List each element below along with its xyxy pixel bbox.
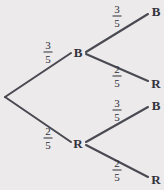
probability-label-r-to-rr: 2 5 <box>113 158 122 183</box>
node-stage1-r: R <box>73 137 82 150</box>
fraction-denominator: 5 <box>44 140 52 151</box>
probability-label-root-to-b: 3 5 <box>44 40 53 65</box>
probability-label-root-to-r: 2 5 <box>44 126 53 151</box>
probability-label-b-to-bb: 3 5 <box>113 4 122 29</box>
fraction-denominator: 5 <box>113 112 121 123</box>
fraction-denominator: 5 <box>113 172 121 183</box>
node-stage1-b: B <box>74 46 83 59</box>
fraction-numerator: 3 <box>113 4 121 15</box>
fraction-numerator: 2 <box>44 126 52 137</box>
probability-label-r-to-rb: 3 5 <box>113 98 122 123</box>
probability-label-b-to-br: 2 5 <box>113 64 122 89</box>
fraction-denominator: 5 <box>113 78 121 89</box>
leaf-node-rr: R <box>151 173 160 186</box>
leaf-node-bb: B <box>152 5 161 18</box>
leaf-node-br: R <box>151 77 160 90</box>
leaf-node-rb: B <box>152 99 161 112</box>
fraction-numerator: 2 <box>113 158 121 169</box>
fraction-numerator: 2 <box>113 64 121 75</box>
branch-root-to-b <box>5 53 71 97</box>
fraction-numerator: 3 <box>44 40 52 51</box>
probability-tree-diagram <box>0 0 164 190</box>
fraction-numerator: 3 <box>113 98 121 109</box>
fraction-denominator: 5 <box>44 54 52 65</box>
fraction-denominator: 5 <box>113 18 121 29</box>
branch-root-to-r <box>5 97 71 142</box>
